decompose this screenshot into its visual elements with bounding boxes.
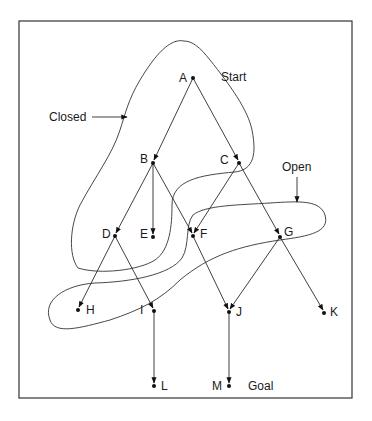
edge-B-D [116,163,153,233]
node-label-L: L [161,379,168,393]
node-A [191,76,195,80]
node-C [237,161,241,165]
node-label-E: E [140,227,148,241]
edge-G-J [230,237,280,309]
node-M [227,384,231,388]
node-label-F: F [200,227,207,241]
node-label-D: D [102,227,111,241]
node-I [152,309,156,313]
open-label: Open [282,160,311,174]
edge-F-J [193,236,228,309]
node-G [278,235,282,239]
closed-label: Closed [49,110,86,124]
node-label-K: K [330,305,338,319]
node-B [151,161,155,165]
start-annotation: Start [221,70,247,84]
edge-D-I [115,236,153,308]
edge-C-F [194,163,239,233]
node-K [322,311,326,315]
node-label-I: I [140,303,143,317]
node-label-G: G [284,225,293,239]
edge-A-B [154,78,193,160]
node-J [227,310,231,314]
search-tree-diagram: Closed Open A B C D [0,0,372,421]
node-label-M: M [212,379,222,393]
node-label-C: C [220,153,229,167]
goal-annotation: Goal [248,379,273,393]
node-E [151,235,155,239]
node-label-B: B [140,152,148,166]
node-L [152,384,156,388]
node-F [191,234,195,238]
node-D [113,234,117,238]
node-label-H: H [86,303,95,317]
node-H [76,308,80,312]
edge-B-F [153,163,192,233]
edge-C-G [239,163,279,234]
node-label-A: A [179,71,187,85]
edge-G-K [280,237,323,310]
edge-A-C [193,78,238,160]
node-label-J: J [236,305,242,319]
